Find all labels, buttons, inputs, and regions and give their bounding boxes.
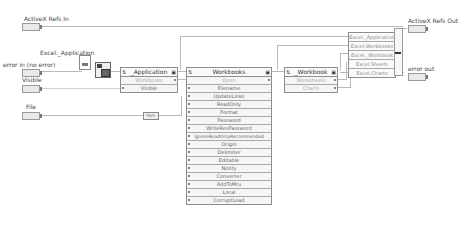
file-label: File (26, 103, 36, 110)
wire-wbs-to-wb (270, 71, 284, 72)
workbooks-param[interactable]: Notify (187, 165, 271, 173)
application-property-node[interactable]: ⇅_Application▣ Workbooks Visible (120, 67, 178, 93)
error-in-label: error in (no error) (3, 61, 55, 68)
workbooks-param[interactable]: Password (187, 117, 271, 125)
wire-wb-refs-v (277, 45, 278, 70)
bundle-by-name[interactable]: Excel._Application Excel.Workbooks Excel… (348, 32, 396, 78)
workbooks-param[interactable]: WriteResPassword (187, 125, 271, 133)
class-constant-icon[interactable] (79, 55, 91, 70)
workbooks-param[interactable]: Format (187, 109, 271, 117)
wire-visible (40, 88, 122, 89)
workbook-worksheets-prop[interactable]: Worksheets (285, 77, 337, 85)
workbooks-title: Workbooks (213, 68, 246, 75)
wire-error-in (40, 71, 82, 72)
file-terminal[interactable] (22, 112, 40, 120)
workbook-title: _Workbook (295, 68, 328, 75)
wire-workbook-refs-v (340, 53, 341, 70)
bundle-output-marker (395, 52, 401, 54)
workbooks-param[interactable]: ReadOnly (187, 101, 271, 109)
bundle-item[interactable]: Excel._Workbook (349, 51, 395, 60)
workbooks-param[interactable]: CorruptLoad (187, 197, 271, 204)
bundle-item[interactable]: Excel.Workbooks (349, 42, 395, 51)
workbooks-param[interactable]: Converter (187, 173, 271, 181)
path-constant[interactable]: Path (143, 112, 159, 120)
wire-file (40, 115, 143, 116)
wire-path-v (181, 96, 182, 116)
wire-charts (336, 87, 350, 88)
wire-app-refs (180, 36, 181, 70)
bundle-item[interactable]: Excel._Application (349, 33, 395, 42)
visible-label: Visible (22, 76, 42, 83)
wire-sheets-v (346, 62, 347, 80)
workbooks-param[interactable]: Local (187, 189, 271, 197)
workbook-property-node[interactable]: ⇅_Workbook▣ Worksheets Charts (284, 67, 338, 93)
bundle-item[interactable]: Excel.Charts (349, 69, 395, 77)
workbooks-param[interactable]: Delimiter (187, 149, 271, 157)
workbooks-param[interactable]: AddToMru (187, 181, 271, 189)
workbooks-invoke-node[interactable]: ⇅Workbooks▣ Open Filename UpdateLinks Re… (186, 67, 272, 205)
application-workbooks-prop[interactable]: Workbooks (121, 77, 177, 85)
activex-refs-out-label: ActiveX Refs Out (408, 17, 458, 24)
workbooks-param[interactable]: Editable (187, 157, 271, 165)
application-title: _Application (131, 68, 168, 75)
wire-refs-top2 (180, 36, 348, 37)
visible-terminal[interactable] (22, 85, 40, 93)
wire-workbook-refs-h (340, 53, 348, 54)
automation-open-icon[interactable] (95, 62, 111, 78)
activex-refs-in-label: ActiveX Refs In (24, 15, 69, 22)
wire-refs-in (40, 26, 403, 27)
error-out-terminal[interactable] (408, 73, 426, 81)
workbook-charts-prop[interactable]: Charts (285, 85, 337, 92)
bundle-item[interactable]: Excel.Sheets (349, 60, 395, 69)
workbooks-param[interactable]: Origin (187, 141, 271, 149)
workbooks-param[interactable]: IgnoreReadOnlyRecommended (187, 133, 271, 141)
activex-refs-in-terminal[interactable] (22, 23, 40, 31)
workbooks-param[interactable]: UpdateLinks (187, 93, 271, 101)
workbooks-method-open[interactable]: Open (187, 77, 271, 85)
application-visible-prop[interactable]: Visible (121, 85, 177, 92)
activex-refs-out-terminal[interactable] (408, 25, 426, 33)
wire-path-to-filename (159, 115, 181, 116)
error-out-label: error out (408, 65, 434, 72)
workbooks-param[interactable]: Filename (187, 85, 271, 93)
wire-wb-refs-h (277, 45, 348, 46)
